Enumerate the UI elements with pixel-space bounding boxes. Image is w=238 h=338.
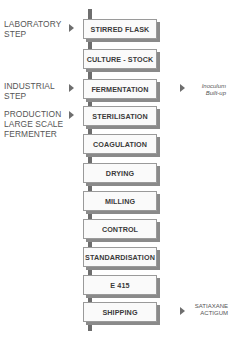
step-control: CONTROL xyxy=(83,219,157,239)
step-milling: MILLING xyxy=(83,191,157,211)
arrow-right-icon xyxy=(69,24,74,32)
note-satiaxane-actigum: SATIAXANE ACTIGUM xyxy=(190,303,228,317)
step-shipping: SHIPPING xyxy=(83,302,157,322)
label-industrial-step: INDUSTRIAL STEP xyxy=(4,81,55,101)
arrow-right-icon xyxy=(180,307,185,315)
step-culture-stock: CULTURE - STOCK xyxy=(83,49,157,69)
step-coagulation: COAGULATION xyxy=(83,134,157,154)
step-standardisation: STANDARDISATION xyxy=(83,247,157,267)
note-inoculum-built-up: Inoculum Built-up xyxy=(192,83,226,97)
arrow-right-icon xyxy=(69,84,74,92)
arrow-right-icon xyxy=(69,111,74,119)
step-e415: E 415 xyxy=(83,275,157,295)
step-sterilisation: STERILISATION xyxy=(83,106,157,126)
arrow-right-icon xyxy=(180,84,185,92)
label-production-fermenter: PRODUCTION LARGE SCALE FERMENTER xyxy=(4,109,63,139)
step-drying: DRYING xyxy=(83,163,157,183)
step-fermentation: FERMENTATION xyxy=(83,79,157,99)
label-laboratory-step: LABORATORY STEP xyxy=(4,19,61,39)
step-stirred-flask: STIRRED FLASK xyxy=(83,19,157,39)
